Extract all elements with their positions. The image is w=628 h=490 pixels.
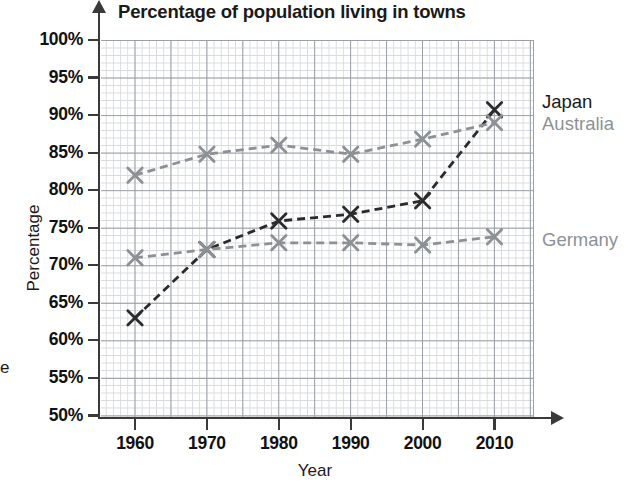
y-tick-mark [88, 414, 100, 416]
x-tick-mark [493, 418, 495, 430]
legend-label-germany: Germany [542, 229, 618, 251]
y-axis-arrow-icon [92, 0, 106, 13]
y-tick-mark [88, 189, 100, 191]
y-tick-label: 100% [3, 29, 83, 50]
y-tick-mark [88, 76, 100, 78]
chart-title: Percentage of population living in towns [118, 1, 538, 23]
x-tick-mark [134, 418, 136, 430]
x-axis-arrow-icon [551, 411, 564, 425]
y-tick-label: 90% [3, 104, 83, 125]
x-tick-mark [278, 418, 280, 430]
y-tick-mark [88, 39, 100, 41]
y-tick-mark [88, 377, 100, 379]
y-tick-label: 80% [3, 179, 83, 200]
y-tick-label: 95% [3, 67, 83, 88]
y-tick-mark [88, 152, 100, 154]
x-tick-label: 2000 [383, 433, 463, 454]
x-tick-mark [422, 418, 424, 430]
x-axis-title: Year [255, 461, 375, 481]
plot-grid-area [101, 40, 534, 418]
x-tick-label: 2010 [455, 433, 535, 454]
y-tick-mark [88, 302, 100, 304]
x-tick-label: 1990 [311, 433, 391, 454]
chart-figure: Percentage of population living in towns… [0, 0, 628, 490]
x-tick-label: 1980 [239, 433, 319, 454]
x-axis-line [98, 417, 554, 419]
y-tick-label: 75% [3, 217, 83, 238]
y-tick-label: 85% [3, 142, 83, 163]
y-axis-line [98, 8, 100, 419]
x-tick-mark [350, 418, 352, 430]
y-tick-mark [88, 264, 100, 266]
y-tick-label: 50% [3, 405, 83, 426]
y-tick-label: 60% [3, 329, 83, 350]
y-tick-mark [88, 227, 100, 229]
y-tick-label: 70% [3, 254, 83, 275]
y-tick-mark [88, 339, 100, 341]
x-tick-label: 1960 [95, 433, 175, 454]
y-axis-title: Percentage [24, 188, 44, 308]
x-tick-label: 1970 [167, 433, 247, 454]
plot-right-border [533, 40, 534, 418]
legend-label-australia: Australia [542, 113, 614, 135]
y-tick-mark [88, 114, 100, 116]
legend-label-japan: Japan [542, 91, 592, 113]
y-tick-label: 65% [3, 292, 83, 313]
y-tick-label: 55% [3, 367, 83, 388]
x-tick-mark [206, 418, 208, 430]
